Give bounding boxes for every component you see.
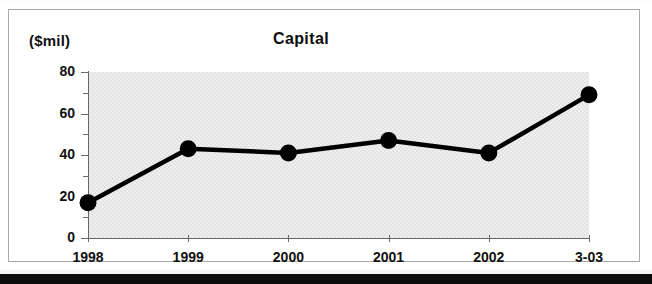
y-tick-label: 40 xyxy=(33,146,75,162)
x-tick-label: 2000 xyxy=(273,249,304,265)
scan-artifact-dark xyxy=(0,274,652,284)
x-tick-label: 1999 xyxy=(173,249,204,265)
data-point-marker xyxy=(380,132,397,149)
figure-frame: ($mil) Capital 020406080 199819992000200… xyxy=(8,9,640,262)
y-tick-label: 0 xyxy=(33,229,75,245)
x-tick-label: 3-03 xyxy=(575,249,603,265)
data-series-capital xyxy=(79,63,591,239)
y-tick-label: 20 xyxy=(33,188,75,204)
plot-container: 020406080 199819992000200120023-03 xyxy=(79,63,591,239)
y-tick-label: 80 xyxy=(33,63,75,79)
y-axis-labels: 020406080 xyxy=(33,63,79,239)
chart-title: Capital xyxy=(9,30,641,48)
x-tick-label: 2002 xyxy=(473,249,504,265)
series-line xyxy=(88,95,589,203)
x-tick-label: 1998 xyxy=(72,249,103,265)
x-tick-label: 2001 xyxy=(373,249,404,265)
data-point-marker xyxy=(480,144,497,161)
data-point-marker xyxy=(581,86,598,103)
data-point-marker xyxy=(80,194,97,211)
y-tick-label: 60 xyxy=(33,105,75,121)
data-point-marker xyxy=(180,140,197,157)
data-point-marker xyxy=(280,144,297,161)
scan-edge xyxy=(0,0,652,2)
